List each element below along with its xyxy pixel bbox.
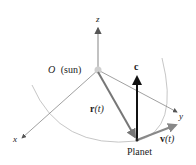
c-vector-label: c: [134, 61, 139, 72]
r-vector-label: r(t): [90, 103, 105, 115]
diagram-canvas: z x y O (sun) c r(t) v(t) Planet: [0, 0, 196, 165]
orbit-diagram: z x y O (sun) c r(t) v(t) Planet: [0, 0, 196, 165]
origin-note: (sun): [61, 64, 82, 76]
planet-label: Planet: [127, 146, 152, 157]
v-arg: (t): [165, 133, 175, 145]
x-axis-label: x: [12, 134, 17, 144]
x-axis: [22, 70, 98, 138]
origin-symbol: O: [48, 64, 55, 75]
v-vector-label: v(t): [160, 133, 175, 145]
planet-dot: [136, 139, 139, 142]
z-axis-label: z: [95, 14, 100, 24]
origin-label: O (sun): [48, 64, 81, 76]
r-arg: (t): [94, 103, 104, 115]
y-axis-label: y: [178, 111, 183, 121]
